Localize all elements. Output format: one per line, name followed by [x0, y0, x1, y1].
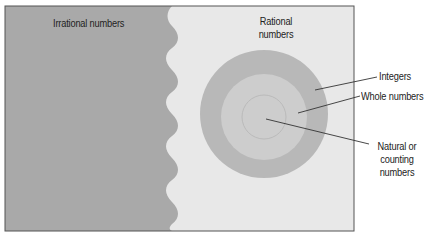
- rational-numbers-label: Rational numbers: [248, 15, 304, 41]
- rational-label-line2: numbers: [248, 28, 304, 41]
- natural-label-line3: numbers: [372, 166, 421, 179]
- natural-numbers-circle: [242, 95, 286, 139]
- irrational-region: [5, 6, 178, 231]
- natural-numbers-label: Natural or counting numbers: [372, 140, 421, 179]
- number-sets-diagram: [0, 0, 426, 236]
- whole-numbers-label: Whole numbers: [361, 90, 423, 103]
- irrational-numbers-label: Irrational numbers: [53, 17, 124, 30]
- natural-label-line2: counting: [372, 153, 421, 166]
- rational-label-line1: Rational: [248, 15, 304, 28]
- integers-label: Integers: [379, 70, 411, 83]
- natural-label-line1: Natural or: [372, 140, 421, 153]
